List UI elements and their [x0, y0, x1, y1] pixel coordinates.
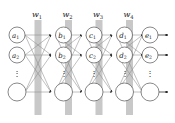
- node-sub-b2: 2: [63, 55, 66, 60]
- node-sub-e1: 1: [149, 35, 152, 40]
- node-sub-d1: 1: [124, 35, 127, 40]
- node-c-n[interactable]: [85, 83, 103, 101]
- weight-labels-group: w1 w2 w3 w4: [32, 10, 134, 20]
- node-sub-c1: 1: [93, 35, 96, 40]
- output-arrows-group: [157, 35, 168, 92]
- network-canvas: a1 a2 b1 b2 c1 c2 d1 d2 e1 e2 ⋮ ⋮ ⋮ ⋮ ⋮ …: [0, 0, 175, 123]
- weight-bar-w1: [35, 20, 42, 115]
- neural-network-diagram: a1 a2 b1 b2 c1 c2 d1 d2 e1 e2 ⋮ ⋮ ⋮ ⋮ ⋮ …: [0, 0, 175, 123]
- node-sub-b1: 1: [63, 35, 66, 40]
- ellipsis-layer-d: ⋮: [121, 69, 129, 78]
- node-e-n[interactable]: [141, 83, 159, 101]
- node-sub-a1: 1: [16, 35, 19, 40]
- svg-text:w1: w1: [32, 10, 42, 20]
- svg-text:w4: w4: [123, 10, 134, 20]
- svg-text:w2: w2: [62, 10, 72, 20]
- svg-text:w3: w3: [93, 10, 103, 20]
- node-sub-c2: 2: [93, 55, 96, 60]
- ellipsis-layer-e: ⋮: [146, 69, 154, 78]
- node-a-n[interactable]: [8, 83, 26, 101]
- weight-sub-w1: 1: [39, 14, 42, 20]
- weight-sub-w3: 3: [100, 14, 103, 20]
- node-b-n[interactable]: [55, 83, 73, 101]
- weight-sub-w2: 2: [69, 14, 72, 20]
- node-sub-d2: 2: [124, 55, 127, 60]
- ellipsis-layer-b: ⋮: [60, 69, 68, 78]
- node-sub-e2: 2: [149, 55, 152, 60]
- ellipsis-layer-a: ⋮: [13, 69, 21, 78]
- node-sub-a2: 2: [16, 55, 19, 60]
- node-d-n[interactable]: [116, 83, 134, 101]
- weight-sub-w4: 4: [130, 14, 134, 20]
- ellipsis-layer-c: ⋮: [90, 69, 98, 78]
